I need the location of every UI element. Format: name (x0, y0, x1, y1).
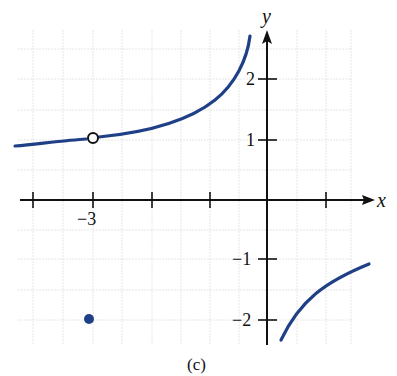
function-graph: x y −3 2 1 −1 −2 (c) (0, 0, 397, 376)
y-axis-label: y (260, 5, 271, 28)
filled-point-marker (84, 314, 94, 324)
figure-caption: (c) (187, 355, 206, 374)
x-axis-label: x (376, 189, 386, 211)
open-point-marker (88, 133, 98, 143)
y-tick-label-1: 1 (246, 130, 255, 150)
grid (18, 30, 352, 345)
right-branch-curve (281, 264, 369, 340)
x-tick-label-neg3: −3 (77, 209, 96, 229)
y-tick-label-neg2: −2 (232, 310, 251, 330)
y-tick-label-neg1: −1 (232, 249, 251, 269)
y-tick-label-2: 2 (246, 69, 255, 89)
